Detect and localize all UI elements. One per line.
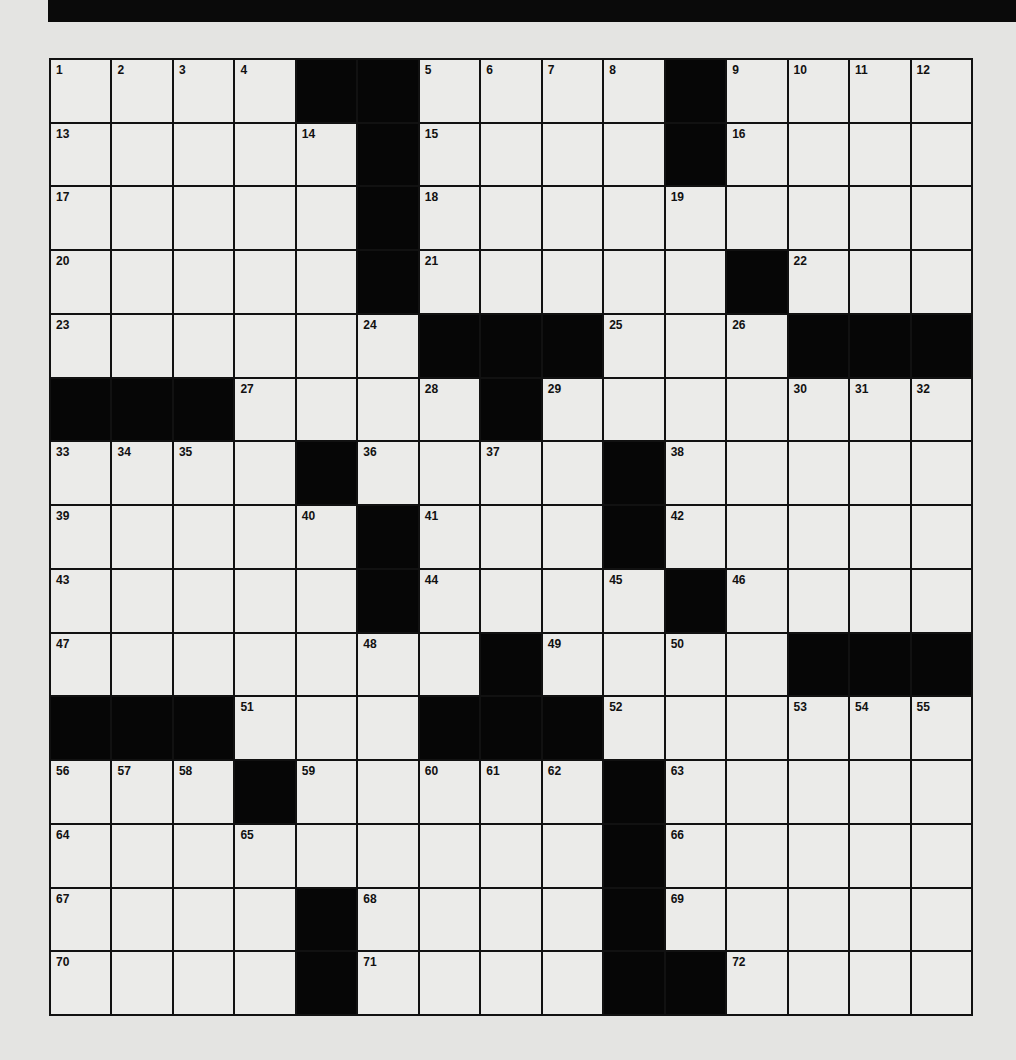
answer-cell[interactable]	[912, 251, 971, 313]
answer-cell[interactable]	[112, 570, 171, 632]
answer-cell[interactable]	[789, 187, 848, 249]
answer-cell[interactable]: 51	[235, 697, 294, 759]
answer-cell[interactable]	[481, 570, 540, 632]
answer-cell[interactable]	[727, 889, 786, 951]
answer-cell[interactable]	[112, 952, 171, 1014]
answer-cell[interactable]	[850, 889, 909, 951]
answer-cell[interactable]	[420, 825, 479, 887]
answer-cell[interactable]	[481, 825, 540, 887]
answer-cell[interactable]	[481, 952, 540, 1014]
answer-cell[interactable]: 19	[666, 187, 725, 249]
answer-cell[interactable]: 9	[727, 60, 786, 122]
answer-cell[interactable]	[420, 889, 479, 951]
answer-cell[interactable]	[358, 379, 417, 441]
answer-cell[interactable]	[850, 825, 909, 887]
answer-cell[interactable]	[727, 442, 786, 504]
answer-cell[interactable]	[850, 442, 909, 504]
answer-cell[interactable]	[112, 251, 171, 313]
answer-cell[interactable]: 72	[727, 952, 786, 1014]
answer-cell[interactable]	[543, 187, 602, 249]
answer-cell[interactable]	[112, 634, 171, 696]
answer-cell[interactable]	[543, 570, 602, 632]
answer-cell[interactable]: 56	[51, 761, 110, 823]
answer-cell[interactable]	[789, 570, 848, 632]
answer-cell[interactable]: 67	[51, 889, 110, 951]
answer-cell[interactable]	[543, 825, 602, 887]
answer-cell[interactable]: 60	[420, 761, 479, 823]
answer-cell[interactable]: 2	[112, 60, 171, 122]
answer-cell[interactable]: 45	[604, 570, 663, 632]
answer-cell[interactable]	[912, 825, 971, 887]
answer-cell[interactable]: 50	[666, 634, 725, 696]
answer-cell[interactable]	[912, 889, 971, 951]
answer-cell[interactable]	[604, 634, 663, 696]
answer-cell[interactable]	[112, 315, 171, 377]
answer-cell[interactable]	[481, 889, 540, 951]
answer-cell[interactable]	[543, 952, 602, 1014]
answer-cell[interactable]: 52	[604, 697, 663, 759]
answer-cell[interactable]	[543, 442, 602, 504]
answer-cell[interactable]: 27	[235, 379, 294, 441]
answer-cell[interactable]: 64	[51, 825, 110, 887]
answer-cell[interactable]	[297, 379, 356, 441]
answer-cell[interactable]	[481, 506, 540, 568]
answer-cell[interactable]: 24	[358, 315, 417, 377]
answer-cell[interactable]	[112, 889, 171, 951]
answer-cell[interactable]	[420, 634, 479, 696]
answer-cell[interactable]	[850, 506, 909, 568]
answer-cell[interactable]	[112, 825, 171, 887]
answer-cell[interactable]	[358, 825, 417, 887]
answer-cell[interactable]: 23	[51, 315, 110, 377]
answer-cell[interactable]: 5	[420, 60, 479, 122]
answer-cell[interactable]	[235, 251, 294, 313]
answer-cell[interactable]: 37	[481, 442, 540, 504]
answer-cell[interactable]	[358, 761, 417, 823]
answer-cell[interactable]	[789, 442, 848, 504]
answer-cell[interactable]: 22	[789, 251, 848, 313]
answer-cell[interactable]	[604, 379, 663, 441]
answer-cell[interactable]	[174, 187, 233, 249]
answer-cell[interactable]	[174, 952, 233, 1014]
answer-cell[interactable]	[297, 251, 356, 313]
answer-cell[interactable]: 35	[174, 442, 233, 504]
answer-cell[interactable]	[912, 952, 971, 1014]
answer-cell[interactable]: 11	[850, 60, 909, 122]
answer-cell[interactable]: 28	[420, 379, 479, 441]
answer-cell[interactable]	[850, 952, 909, 1014]
answer-cell[interactable]	[235, 442, 294, 504]
answer-cell[interactable]	[235, 506, 294, 568]
answer-cell[interactable]	[850, 187, 909, 249]
answer-cell[interactable]: 21	[420, 251, 479, 313]
answer-cell[interactable]	[235, 315, 294, 377]
answer-cell[interactable]	[604, 187, 663, 249]
answer-cell[interactable]	[912, 761, 971, 823]
answer-cell[interactable]	[174, 570, 233, 632]
answer-cell[interactable]: 54	[850, 697, 909, 759]
answer-cell[interactable]	[850, 761, 909, 823]
answer-cell[interactable]	[789, 952, 848, 1014]
answer-cell[interactable]: 12	[912, 60, 971, 122]
answer-cell[interactable]: 16	[727, 124, 786, 186]
answer-cell[interactable]	[727, 634, 786, 696]
answer-cell[interactable]	[543, 251, 602, 313]
answer-cell[interactable]: 53	[789, 697, 848, 759]
answer-cell[interactable]: 3	[174, 60, 233, 122]
answer-cell[interactable]	[420, 952, 479, 1014]
answer-cell[interactable]: 46	[727, 570, 786, 632]
answer-cell[interactable]	[789, 889, 848, 951]
answer-cell[interactable]: 57	[112, 761, 171, 823]
answer-cell[interactable]	[789, 506, 848, 568]
answer-cell[interactable]: 36	[358, 442, 417, 504]
answer-cell[interactable]: 18	[420, 187, 479, 249]
answer-cell[interactable]: 40	[297, 506, 356, 568]
answer-cell[interactable]: 42	[666, 506, 725, 568]
answer-cell[interactable]: 59	[297, 761, 356, 823]
answer-cell[interactable]	[112, 124, 171, 186]
answer-cell[interactable]	[666, 251, 725, 313]
answer-cell[interactable]: 33	[51, 442, 110, 504]
answer-cell[interactable]	[112, 506, 171, 568]
answer-cell[interactable]: 55	[912, 697, 971, 759]
answer-cell[interactable]	[235, 124, 294, 186]
answer-cell[interactable]	[174, 889, 233, 951]
answer-cell[interactable]	[912, 187, 971, 249]
